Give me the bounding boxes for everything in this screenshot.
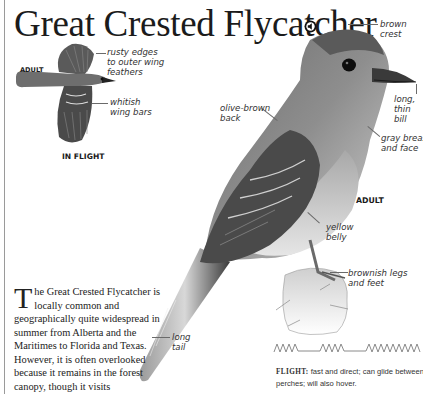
flight-caption: IN FLIGHT xyxy=(62,152,104,161)
flight-description: FLIGHT: fast and direct; can glide betwe… xyxy=(276,366,423,390)
label-crest: brown crest xyxy=(380,19,407,39)
label-back: olive-brown back xyxy=(220,103,270,123)
label-breast: gray breast and face xyxy=(381,133,423,153)
label-tail: long tail xyxy=(172,332,191,352)
leader-line-legs xyxy=(330,272,348,273)
label-wing-bars: whitish wing bars xyxy=(110,97,152,117)
leader-line-bill xyxy=(416,84,417,94)
label-belly: yellow belly xyxy=(326,222,353,242)
label-legs: brownish legs and feet xyxy=(348,268,407,288)
flight-label: FLIGHT: xyxy=(276,368,309,376)
intro-text: he Great Crested Flycatcher is locally c… xyxy=(14,286,160,392)
label-bill: long, thin bill xyxy=(394,94,415,124)
intro-paragraph: The Great Crested Flycatcher is locally … xyxy=(14,285,164,393)
perched-age-label: ADULT xyxy=(356,196,384,205)
leader-line-rusty-edges xyxy=(96,53,106,54)
undulating-flight-pattern-icon xyxy=(272,342,423,354)
label-rusty-edges: rusty edges to outer wing feathers xyxy=(107,47,164,77)
drop-cap: T xyxy=(14,286,32,310)
leader-line-wing-bars xyxy=(92,103,108,104)
leader-line-crest xyxy=(348,24,378,25)
flight-age-label: ADULT xyxy=(20,66,44,74)
